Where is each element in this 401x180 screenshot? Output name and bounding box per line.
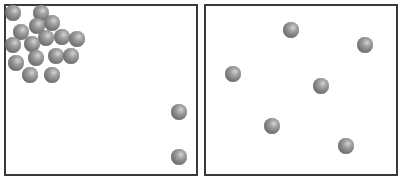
left-particle	[22, 67, 38, 83]
left-particle	[54, 29, 70, 45]
right-particle	[313, 78, 329, 94]
left-particle	[28, 50, 44, 66]
left-particle	[5, 37, 21, 53]
right-particle	[264, 118, 280, 134]
left-particle	[171, 149, 187, 165]
right-container	[204, 4, 398, 176]
right-particle	[283, 22, 299, 38]
left-particle	[44, 15, 60, 31]
left-particle	[5, 5, 21, 21]
left-particle	[63, 48, 79, 64]
right-particle	[357, 37, 373, 53]
left-particle	[171, 104, 187, 120]
left-particle	[69, 31, 85, 47]
left-particle	[44, 67, 60, 83]
left-particle	[48, 48, 64, 64]
right-particle	[225, 66, 241, 82]
left-particle	[38, 30, 54, 46]
left-particle	[8, 55, 24, 71]
right-particle	[338, 138, 354, 154]
